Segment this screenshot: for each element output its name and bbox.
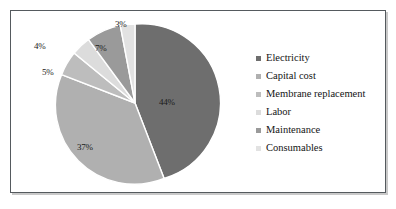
legend-swatch-icon xyxy=(256,74,261,79)
slice-label-capital-cost: 37% xyxy=(77,142,93,152)
legend-item-capital-cost[interactable]: Capital cost xyxy=(256,67,384,85)
legend-swatch-icon xyxy=(256,110,261,115)
legend-swatch-icon xyxy=(256,146,261,151)
legend-item-membrane-replacement[interactable]: Membrane replacement xyxy=(256,85,384,103)
legend-item-label: Electricity xyxy=(266,53,310,64)
legend-item-label: Labor xyxy=(266,107,291,118)
legend-item-labor[interactable]: Labor xyxy=(256,103,384,121)
slice-label-labor: 4% xyxy=(34,41,46,51)
legend-item-label: Membrane replacement xyxy=(266,89,365,100)
legend-item-consumables[interactable]: Consumables xyxy=(256,139,384,157)
slice-label-electricity: 44% xyxy=(159,97,175,107)
legend-item-label: Capital cost xyxy=(266,71,316,82)
plot-area: 44% 37% 5% 4% 7% 3% Electricity Capital … xyxy=(11,11,387,194)
pie-chart-graphic xyxy=(49,19,221,187)
pie-chart-screenshot: 44% 37% 5% 4% 7% 3% Electricity Capital … xyxy=(0,0,396,209)
legend-item-electricity[interactable]: Electricity xyxy=(256,49,384,67)
slice-label-consumables: 3% xyxy=(115,19,127,29)
legend-item-maintenance[interactable]: Maintenance xyxy=(256,121,384,139)
legend-swatch-icon xyxy=(256,92,261,97)
legend-swatch-icon xyxy=(256,56,261,61)
chart-frame: 44% 37% 5% 4% 7% 3% Electricity Capital … xyxy=(10,10,386,193)
slice-label-membrane-replacement: 5% xyxy=(42,67,54,77)
legend-item-label: Consumables xyxy=(266,143,323,154)
legend-item-label: Maintenance xyxy=(266,125,320,136)
legend-swatch-icon xyxy=(256,128,261,133)
legend: Electricity Capital cost Membrane replac… xyxy=(256,49,384,157)
slice-label-maintenance: 7% xyxy=(95,43,107,53)
